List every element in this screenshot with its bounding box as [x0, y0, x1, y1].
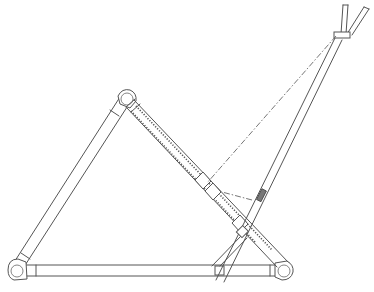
fork-clamp — [334, 32, 350, 38]
base-bar — [24, 265, 280, 276]
dash-dot-line — [207, 36, 336, 183]
inner-tie — [212, 226, 248, 266]
diagonal-pole — [216, 38, 342, 282]
dash-dot-line-lower — [222, 192, 252, 200]
right-foot-hinge — [275, 261, 293, 280]
strut-collars — [195, 172, 248, 232]
left-foot-hinge — [8, 259, 27, 280]
frame-diagram — [0, 0, 374, 292]
fork-top — [334, 5, 369, 38]
top-hinge — [118, 90, 136, 108]
frame-drawing — [0, 0, 374, 292]
left-leg — [13, 97, 129, 270]
